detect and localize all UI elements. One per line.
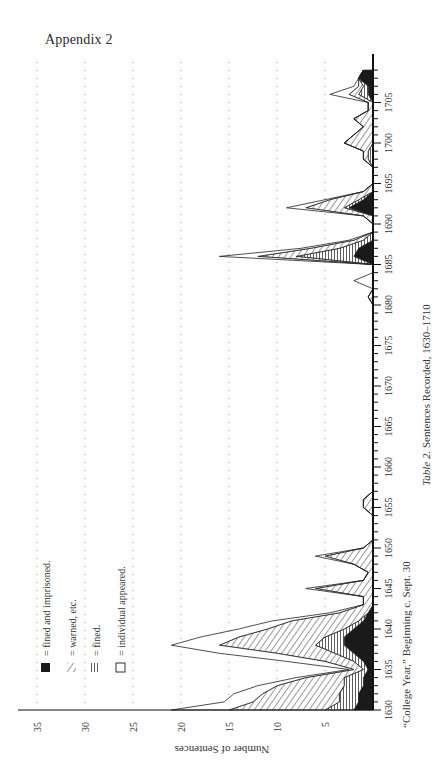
value-tick-label: 25 bbox=[128, 722, 139, 732]
legend-label: = individual appeared. bbox=[116, 566, 127, 656]
year-tick-label: 1650 bbox=[383, 538, 394, 558]
year-tick-label: 1660 bbox=[383, 457, 394, 477]
figure-caption: Table 2. Sentences Recorded, 1630–1710 bbox=[420, 304, 432, 486]
year-tick-label: 1645 bbox=[383, 579, 394, 599]
legend-swatch-horizontal bbox=[91, 663, 100, 672]
legend-item-diagonal: = warned, etc. bbox=[67, 599, 78, 672]
value-tick-label: 20 bbox=[176, 722, 187, 732]
legend-item-open: = individual appeared. bbox=[116, 566, 127, 672]
value-tick-label: 30 bbox=[80, 722, 91, 732]
x-axis-note: “College Year,” Beginning c. Sept. 30 bbox=[400, 561, 412, 728]
year-tick-label: 1670 bbox=[383, 376, 394, 396]
legend-label: = warned, etc. bbox=[67, 599, 78, 656]
year-tick-label: 1695 bbox=[383, 174, 394, 194]
y-axis-label: Number of Sentences bbox=[175, 744, 270, 756]
year-tick-label: 1705 bbox=[383, 93, 394, 113]
year-tick-label: 1640 bbox=[383, 619, 394, 639]
legend-item-solid: = fined and imprisoned. bbox=[41, 560, 52, 672]
legend-swatch-solid bbox=[41, 663, 50, 672]
legend-swatch-open bbox=[116, 663, 125, 672]
year-tick-label: 1630 bbox=[383, 700, 394, 720]
year-tick-label: 1680 bbox=[383, 295, 394, 315]
legend-item-horizontal: = fined. bbox=[91, 625, 102, 672]
year-tick-label: 1685 bbox=[383, 255, 394, 275]
legend: = fined and imprisoned.= warned, etc.= f… bbox=[41, 560, 127, 672]
sentences-chart: = fined and imprisoned.= warned, etc.= f… bbox=[0, 0, 446, 769]
year-tick-label: 1665 bbox=[383, 417, 394, 437]
stacked-areas bbox=[171, 70, 373, 710]
legend-label: = fined and imprisoned. bbox=[41, 560, 52, 656]
area-warned-etc- bbox=[219, 70, 373, 710]
value-tick-label: 10 bbox=[272, 722, 283, 732]
value-tick-label: 35 bbox=[32, 722, 43, 732]
year-tick-label: 1700 bbox=[383, 133, 394, 153]
value-tick-label: 5 bbox=[320, 722, 331, 727]
legend-swatch-diagonal bbox=[67, 663, 76, 672]
legend-label: = fined. bbox=[91, 625, 102, 656]
year-tick-label: 1675 bbox=[383, 336, 394, 356]
year-tick-label: 1635 bbox=[383, 660, 394, 680]
value-tick-label: 15 bbox=[224, 722, 235, 732]
gridlines bbox=[37, 62, 325, 710]
year-tick-label: 1655 bbox=[383, 498, 394, 518]
year-tick-label: 1690 bbox=[383, 214, 394, 234]
